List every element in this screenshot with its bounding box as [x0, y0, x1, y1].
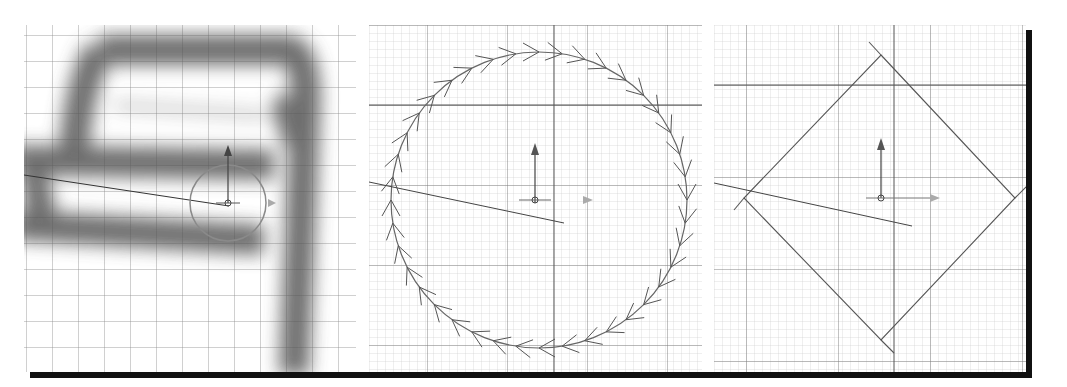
viewport-rotated-square[interactable]	[714, 25, 1026, 372]
drop-shadow-bottom	[30, 372, 1032, 378]
circle-chevrons-canvas	[369, 25, 702, 372]
rotated-square-canvas	[714, 25, 1026, 372]
weight-preview-canvas	[24, 25, 356, 372]
three-panel-figure	[0, 0, 1067, 387]
drop-shadow-right	[1026, 30, 1032, 378]
viewport-weight-preview[interactable]	[24, 25, 356, 372]
viewport-circle-chevrons[interactable]	[369, 25, 702, 372]
